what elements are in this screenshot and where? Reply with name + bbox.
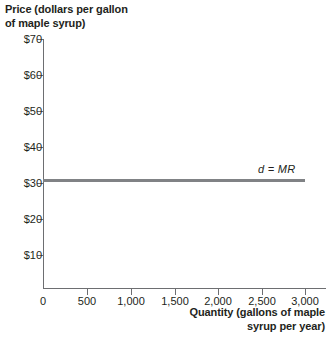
y-axis-tick-label: $50 <box>2 106 42 117</box>
x-axis-title: Quantity (gallons of maple syrup per yea… <box>105 305 325 333</box>
y-axis-title-line-1: Price (dollars per gallon <box>5 2 205 16</box>
x-axis-line <box>43 288 326 289</box>
y-axis-tick-label: $40 <box>2 142 42 153</box>
demand-curve-label: d = MR <box>258 163 296 175</box>
demand-curve-line <box>43 179 305 182</box>
chart-container: Price (dollars per gallon of maple syrup… <box>0 0 331 337</box>
y-axis-tick-label: $20 <box>2 214 42 225</box>
y-axis-title: Price (dollars per gallon of maple syrup… <box>5 2 205 30</box>
y-axis-tick-label: $70 <box>2 34 42 45</box>
y-axis-tick-label: $10 <box>2 250 42 261</box>
y-axis-tick-label: $60 <box>2 70 42 81</box>
y-axis-tick-label: $30 <box>2 178 42 189</box>
y-axis-title-line-2: of maple syrup) <box>5 16 205 30</box>
y-axis-line <box>43 39 44 289</box>
x-axis-title-line-2: syrup per year) <box>105 319 325 333</box>
x-axis-title-line-1: Quantity (gallons of maple <box>105 305 325 319</box>
